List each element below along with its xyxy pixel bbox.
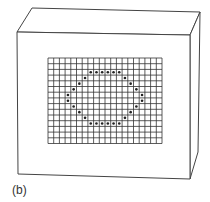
grid-dot: [67, 94, 70, 97]
box-front-face: [17, 32, 190, 179]
pixel-grid: [48, 58, 162, 144]
grid-dot: [89, 122, 92, 125]
figure-label: (b): [12, 183, 27, 197]
grid-dot: [112, 122, 115, 125]
box-side-face: [190, 12, 200, 179]
grid-dot: [124, 117, 127, 120]
grid-dot: [84, 117, 87, 120]
grid-dot: [89, 71, 92, 74]
grid-dot: [141, 99, 144, 102]
grid-dot: [141, 94, 144, 97]
box-diagram: [0, 0, 210, 202]
grid-dot: [107, 71, 110, 74]
grid-dot: [78, 82, 81, 85]
grid-dot: [118, 122, 121, 125]
grid-dot: [101, 71, 104, 74]
grid-dot: [135, 88, 138, 91]
grid-dot: [95, 71, 98, 74]
grid-dot: [72, 88, 75, 91]
grid-dot: [129, 111, 132, 114]
grid-dot: [135, 105, 138, 108]
grid-dot: [129, 82, 132, 85]
grid-dot: [67, 99, 70, 102]
grid-dot: [84, 77, 87, 80]
grid-dot: [72, 105, 75, 108]
grid-dot: [78, 111, 81, 114]
grid-dot: [95, 122, 98, 125]
grid-dot: [118, 71, 121, 74]
grid-dot: [101, 122, 104, 125]
grid-dot: [112, 71, 115, 74]
grid-dot: [107, 122, 110, 125]
box-top-face: [17, 8, 200, 35]
grid-dot: [124, 77, 127, 80]
